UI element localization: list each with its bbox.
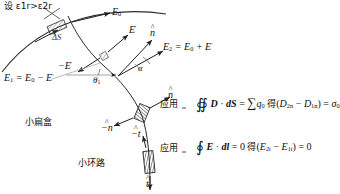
label-minus-E-prime: −E′ [58,61,72,71]
charge-patch-marker [99,51,108,60]
label-E2-equation: E2 = E0 + E′ [163,42,213,53]
label-E1-equation: E1 = E0 − E′ [4,73,54,84]
label-E0: E0 [112,7,121,18]
label-alpha: α [138,64,142,73]
equation-pointer-lines [182,108,186,152]
apply-label-gauss: 应用 [160,100,178,109]
label-t-hat: t^ [146,179,149,189]
apply-label-circulation: 应用 [160,144,178,153]
label-minus-n-hat-box: −n^ [101,123,113,133]
vector-n-hat-arrow [118,40,152,76]
label-n-hat-upper: n^ [150,28,155,38]
label-E-prime: E′ [129,25,137,35]
line-integral-icon: ∮ [196,139,204,155]
surface-integral-icon: ∯ [196,96,208,112]
label-delta-S: ΔS [52,33,61,42]
label-small-loop: 小环路 [78,159,105,168]
vector-minus-E-prime-arrow [78,58,100,72]
label-minus-t-hat: −t^ [131,129,141,139]
premise-label: 设 ε1r>ε2r [4,2,52,11]
label-theta1: θ1 [93,76,100,86]
equation-circulation-law: ∮ E · dl = 0 得(E2t − E1t) = 0 [196,140,312,155]
equation-gauss-law: ∯ D · dS = ∑q0 得(D2n − D1n) = σ0 [196,96,340,112]
vector-E-prime-arrow [108,35,128,52]
label-flat-box: 小扁盒 [25,118,52,127]
